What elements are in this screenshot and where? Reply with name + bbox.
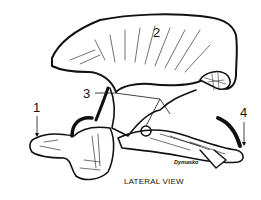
view-caption: LATERAL VIEW bbox=[124, 177, 184, 186]
right-facet bbox=[200, 72, 230, 90]
vertebra-illustration: 1 2 3 4 Dymasko LATERAL VIEW bbox=[0, 0, 261, 200]
label-3: 3 bbox=[83, 87, 90, 100]
artist-signature: Dymasko bbox=[174, 159, 198, 165]
label-2: 2 bbox=[153, 26, 160, 39]
leader-line-3b bbox=[160, 99, 170, 114]
transverse-process bbox=[118, 130, 243, 163]
label-4: 4 bbox=[240, 106, 247, 119]
label-1: 1 bbox=[33, 101, 40, 114]
